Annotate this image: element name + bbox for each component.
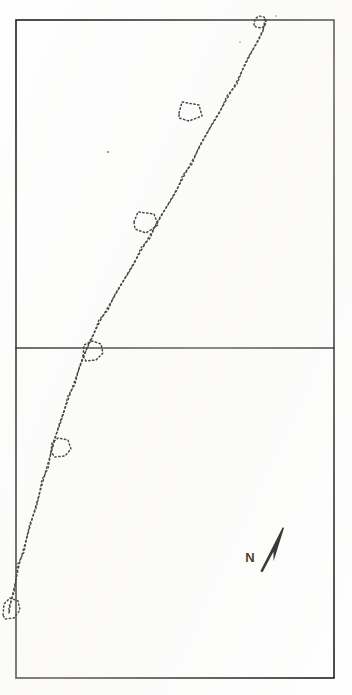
scan-speck-2 xyxy=(239,41,241,43)
map-drawing: N xyxy=(0,0,352,695)
map-sketch-canvas: N xyxy=(0,0,352,695)
scan-speck-3 xyxy=(275,15,277,17)
north-arrow-label: N xyxy=(245,550,254,565)
scan-speck-1 xyxy=(107,151,109,153)
